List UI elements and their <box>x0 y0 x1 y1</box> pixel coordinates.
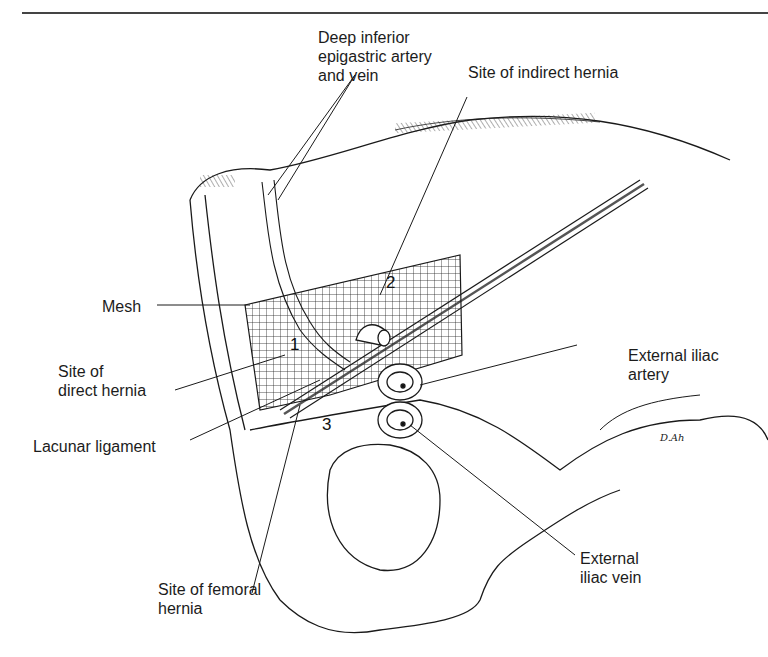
region-number-2: 2 <box>386 273 395 292</box>
label-line: Site of femoral <box>158 580 261 599</box>
label-site-of-direct-hernia: Site of direct hernia <box>58 362 146 400</box>
label-site-of-indirect-hernia: Site of indirect hernia <box>468 63 618 82</box>
anatomical-illustration: 1 2 3 D.Ah <box>0 0 768 657</box>
label-mesh: Mesh <box>102 297 141 316</box>
label-line: Deep inferior <box>318 28 432 47</box>
label-line: Site of indirect hernia <box>468 63 618 82</box>
label-line: Mesh <box>102 297 141 316</box>
label-deep-inferior-epigastric: Deep inferior epigastric artery and vein <box>318 28 432 85</box>
label-external-iliac-vein: External iliac vein <box>580 549 641 587</box>
region-number-1: 1 <box>290 335 299 354</box>
label-line: iliac vein <box>580 568 641 587</box>
label-line: and vein <box>318 66 432 85</box>
label-lacunar-ligament: Lacunar ligament <box>33 437 156 456</box>
label-site-of-femoral-hernia: Site of femoral hernia <box>158 580 261 618</box>
artist-signature: D.Ah <box>659 432 685 443</box>
label-line: External iliac <box>628 346 719 365</box>
label-line: Lacunar ligament <box>33 437 156 456</box>
region-number-3: 3 <box>322 415 331 434</box>
label-line: direct hernia <box>58 381 146 400</box>
label-line: epigastric artery <box>318 47 432 66</box>
label-external-iliac-artery: External iliac artery <box>628 346 719 384</box>
label-line: External <box>580 549 641 568</box>
label-line: Site of <box>58 362 146 381</box>
label-line: artery <box>628 365 719 384</box>
label-line: hernia <box>158 599 261 618</box>
